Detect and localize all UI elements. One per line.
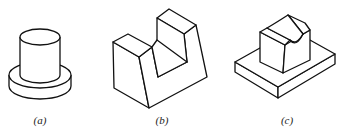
panel-label-a: (a) <box>34 114 47 126</box>
drawing-a-cylinder-on-disc <box>9 29 71 99</box>
drawing-b-u-block <box>113 9 207 108</box>
panel-label-c: (c) <box>281 114 293 126</box>
drawing-c-saddle-on-plate <box>235 15 335 98</box>
panel-label-b: (b) <box>156 114 169 126</box>
